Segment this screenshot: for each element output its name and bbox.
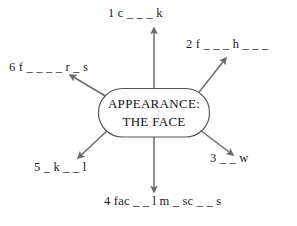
arrow-branch-2 <box>196 58 226 96</box>
branch-label-2: 2 f _ _ _ h _ _ _ <box>186 38 269 51</box>
arrow-branch-5 <box>78 130 108 158</box>
center-node-line-2: THE FACE <box>122 114 185 129</box>
center-node-line-1: APPEARANCE: <box>108 96 200 111</box>
branch-label-3: 3 _ _ w <box>210 152 249 165</box>
branch-label-4: 4 fac _ _ l m _ sc _ _ s <box>104 195 221 208</box>
branch-label-6: 6 f _ _ _ _ r _ s <box>9 61 88 74</box>
branch-label-5: 5 _ k _ _ l <box>34 161 87 174</box>
diagram-canvas: APPEARANCE: THE FACE <box>0 0 297 226</box>
spider-diagram: APPEARANCE: THE FACE 1 c _ _ _ k 2 f _ _… <box>0 0 297 226</box>
branch-label-1: 1 c _ _ _ k <box>108 7 163 20</box>
arrow-branch-6 <box>70 75 107 97</box>
